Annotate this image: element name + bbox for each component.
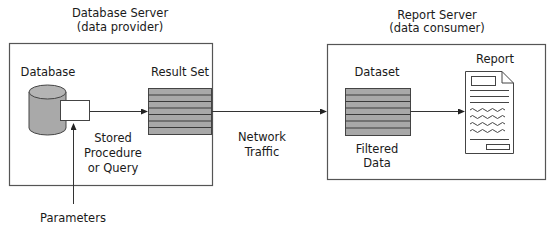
- network-traffic-label-line1: Network: [238, 130, 286, 144]
- result-set-grid-icon: [149, 89, 212, 135]
- report-server-title: Report Server: [397, 8, 477, 22]
- parameters-label: Parameters: [40, 211, 106, 225]
- stored-procedure-box: [61, 101, 90, 121]
- report-label: Report: [476, 52, 515, 66]
- filtered-data-label-line2: Data: [363, 156, 390, 170]
- stored-procedure-label-line2: Procedure: [84, 146, 142, 160]
- database-server-title: Database Server: [72, 6, 169, 20]
- filtered-data-label-line1: Filtered: [356, 142, 399, 156]
- network-traffic-label-line2: Traffic: [244, 145, 280, 159]
- data-flow-diagram: Database Server (data provider) Database…: [0, 0, 553, 230]
- database-server-group: Database Server (data provider) Database…: [10, 6, 213, 186]
- report-document-icon: [466, 72, 514, 154]
- report-server-group: Report Server (data consumer) Dataset Fi…: [328, 8, 546, 180]
- dataset-label: Dataset: [354, 65, 400, 79]
- stored-procedure-label-line1: Stored: [94, 131, 132, 145]
- dataset-grid-icon: [346, 89, 411, 136]
- database-server-subtitle: (data provider): [77, 20, 163, 34]
- stored-procedure-label-line3: or Query: [88, 161, 139, 175]
- result-set-label: Result Set: [151, 65, 210, 79]
- report-server-subtitle: (data consumer): [389, 21, 484, 35]
- database-label: Database: [21, 65, 76, 79]
